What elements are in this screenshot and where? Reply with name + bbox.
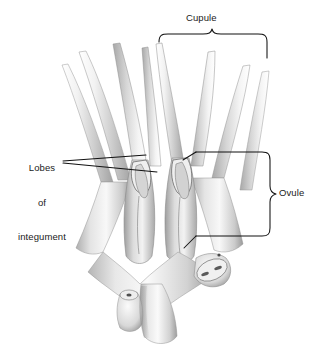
arm-left — [76, 182, 131, 254]
stub-lower-left — [117, 290, 143, 331]
ovule-right — [165, 158, 197, 264]
label-lobes-of-integument: Lobes of integument — [6, 139, 78, 266]
label-cupule: Cupule — [186, 12, 217, 24]
spike-second-right — [191, 51, 215, 166]
label-lobes-line-3: integument — [6, 231, 78, 243]
spike-third-right — [212, 65, 250, 178]
stub-upper-right-pore — [217, 253, 220, 256]
spike-first-right — [156, 43, 184, 164]
stub-upper-right — [193, 253, 230, 286]
label-lobes-line-1: Lobes — [6, 162, 78, 174]
label-lobes-line-2: of — [6, 197, 78, 209]
arm-right — [191, 178, 243, 252]
ovule-left — [124, 160, 155, 264]
stub-lower-left-pith — [126, 294, 131, 297]
plant-specimen — [62, 43, 269, 344]
botanical-figure: Cupule Ovule Lobes of integument — [0, 0, 315, 354]
label-ovule: Ovule — [279, 187, 304, 199]
